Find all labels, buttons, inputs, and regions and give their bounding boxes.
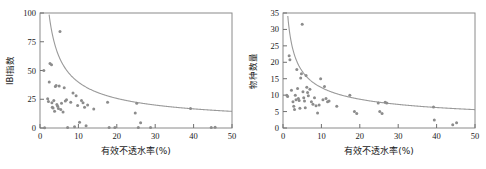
data-point [316,111,319,114]
x-tick-label-0: 0 [38,131,42,141]
data-point [304,106,307,109]
data-point [451,123,454,126]
scatter-plot-right: 0102030405005101520253035有效不透水率(%)物种数量 [243,0,486,169]
x-tick-label-50: 50 [471,131,480,141]
plot-group-right: 0102030405005101520253035有效不透水率(%)物种数量 [248,8,479,156]
data-point [135,102,138,105]
data-point [50,63,53,66]
data-point [69,101,72,104]
x-tick-label-10: 10 [317,131,326,141]
data-point [291,100,294,103]
x-tick-label-20: 20 [356,131,365,141]
data-point [139,121,142,124]
data-point [299,77,302,80]
y-tick-label-10: 10 [271,90,280,100]
data-point [294,94,297,97]
data-point [73,125,76,128]
data-point [42,69,45,72]
data-point [315,104,318,107]
data-point [58,85,61,88]
data-point [305,86,308,89]
data-point [108,126,111,129]
data-point [47,100,50,103]
y-tick-label-0: 0 [32,123,36,133]
x-tick-label-10: 10 [74,131,83,141]
data-point [288,58,291,61]
data-point [210,126,213,129]
data-point [295,68,298,71]
data-point [319,77,322,80]
x-tick-label-0: 0 [281,131,285,141]
data-point [293,108,296,111]
data-point [301,23,304,26]
data-point [323,85,326,88]
data-point [290,89,293,92]
data-point [43,126,46,129]
data-point [85,124,88,127]
data-point [381,112,384,115]
y-tick-label-25: 25 [28,94,37,104]
data-point [313,96,316,99]
data-point [300,72,303,75]
y-tick-label-0: 0 [275,123,279,133]
data-point [66,126,69,129]
data-point [301,90,304,93]
data-point [292,105,295,108]
data-point [328,100,331,103]
data-point [52,99,55,102]
data-point [76,104,79,107]
y-tick-label-15: 15 [271,74,280,84]
x-tick-label-40: 40 [432,131,441,141]
data-point [92,108,95,111]
y-tick-label-35: 35 [271,8,280,18]
data-point [53,110,56,113]
data-point [353,110,356,113]
y-axis-title: 物种数量 [248,53,258,89]
y-tick-label-5: 5 [275,107,279,117]
data-point [306,91,309,94]
data-point [298,107,301,110]
data-point [134,112,137,115]
y-tick-label-30: 30 [271,24,280,34]
figure-root: 010203040500255075100有效不透水率(%)IBI指数 0102… [0,0,486,169]
data-point [286,95,289,98]
data-point [189,107,192,110]
data-point [310,100,313,103]
data-point [75,94,78,97]
data-point [325,97,328,100]
y-axis-title: IBI指数 [5,56,15,85]
x-axis-title: 有效不透水率(%) [344,145,414,156]
data-point [432,105,435,108]
x-tick-label-30: 30 [394,131,403,141]
fit-curve [288,16,475,110]
data-point [288,54,291,57]
data-point [72,91,75,94]
data-point [355,112,358,115]
data-point [305,74,308,77]
data-point [378,110,381,113]
data-point [83,106,86,109]
data-point [106,101,109,104]
x-tick-label-20: 20 [113,131,122,141]
data-point [50,101,53,104]
plot-group-left: 010203040500255075100有效不透水率(%)IBI指数 [5,8,236,156]
data-point [65,98,68,101]
data-point [385,102,388,105]
data-point [455,121,458,124]
data-point [60,102,63,105]
data-point [308,88,311,91]
data-point [48,81,51,84]
plot-frame [40,13,232,128]
data-point [303,100,306,103]
data-point [137,126,140,129]
y-tick-label-20: 20 [271,57,280,67]
data-point [348,94,351,97]
data-point [46,97,49,100]
data-point [302,96,305,99]
data-point [214,126,217,129]
scatter-plot-left: 010203040500255075100有效不透水率(%)IBI指数 [0,0,243,169]
data-point [307,94,310,97]
data-point [52,106,55,109]
data-point [62,110,65,113]
data-point [58,30,61,33]
